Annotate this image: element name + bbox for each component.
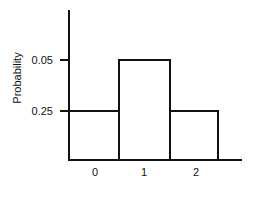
chart: Probability 0.05 0.25 0 1 2 bbox=[0, 0, 254, 197]
y-tick-label-upper: 0.05 bbox=[23, 54, 53, 66]
x-tick-label-2: 2 bbox=[188, 166, 204, 178]
x-tick-label-1: 1 bbox=[136, 166, 152, 178]
y-axis-label: Probability bbox=[11, 48, 23, 108]
y-tick-label-lower: 0.25 bbox=[23, 105, 53, 117]
bar-2 bbox=[169, 110, 219, 161]
x-axis bbox=[68, 159, 242, 161]
bar-1 bbox=[118, 59, 171, 161]
y-tick-upper bbox=[60, 59, 69, 61]
bar-0 bbox=[68, 110, 120, 161]
x-tick-label-0: 0 bbox=[87, 166, 103, 178]
